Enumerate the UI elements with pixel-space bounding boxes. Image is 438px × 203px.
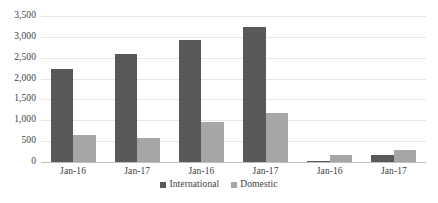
bar-domestic <box>266 113 288 162</box>
x-axis-tick-label: Jan-16 <box>41 164 105 178</box>
bar-group <box>307 16 352 162</box>
bars-layer <box>41 16 426 162</box>
y-axis-tick-label: 3,000 <box>0 32 36 42</box>
x-axis-tick-label: Jan-16 <box>298 164 362 178</box>
legend-swatch-icon <box>160 182 166 188</box>
legend-item-domestic[interactable]: Domestic <box>231 180 277 190</box>
y-axis-tick-label: 0 <box>0 157 36 167</box>
bar-group <box>115 16 160 162</box>
bar-international <box>371 155 393 162</box>
x-axis-tick-label: Jan-16 <box>169 164 233 178</box>
x-axis-tick-label: Jan-17 <box>234 164 298 178</box>
x-axis-tick-label: Jan-17 <box>105 164 169 178</box>
bar-international <box>243 27 265 162</box>
chart-legend: InternationalDomestic <box>0 178 438 192</box>
y-axis-tick-label: 2,000 <box>0 74 36 84</box>
legend-label: International <box>169 180 219 190</box>
y-axis-tick-label: 500 <box>0 136 36 146</box>
bar-international <box>51 69 73 162</box>
x-axis: Jan-16Jan-17Jan-16Jan-17Jan-16Jan-17 <box>41 164 426 178</box>
y-axis-tick-label: 1,000 <box>0 116 36 126</box>
legend-label: Domestic <box>240 180 277 190</box>
bar-international <box>179 40 201 162</box>
y-axis: 05001,0001,5002,0002,5003,0003,500 <box>0 16 36 162</box>
x-axis-tick-label: Jan-17 <box>362 164 426 178</box>
bar-domestic <box>73 135 95 162</box>
bar-group <box>179 16 224 162</box>
bar-domestic <box>394 150 416 162</box>
bar-international <box>115 54 137 162</box>
bar-domestic <box>330 155 352 162</box>
axis-line-zero <box>41 162 426 163</box>
legend-swatch-icon <box>231 182 237 188</box>
y-axis-tick-label: 1,500 <box>0 95 36 105</box>
bar-group <box>243 16 288 162</box>
y-axis-tick-label: 3,500 <box>0 11 36 21</box>
bar-chart: 05001,0001,5002,0002,5003,0003,500 Jan-1… <box>0 0 438 203</box>
y-axis-tick-label: 2,500 <box>0 53 36 63</box>
bar-domestic <box>137 138 159 162</box>
legend-item-international[interactable]: International <box>160 180 219 190</box>
bar-group <box>51 16 96 162</box>
bar-international <box>307 161 329 162</box>
bar-domestic <box>201 122 223 162</box>
bar-group <box>371 16 416 162</box>
